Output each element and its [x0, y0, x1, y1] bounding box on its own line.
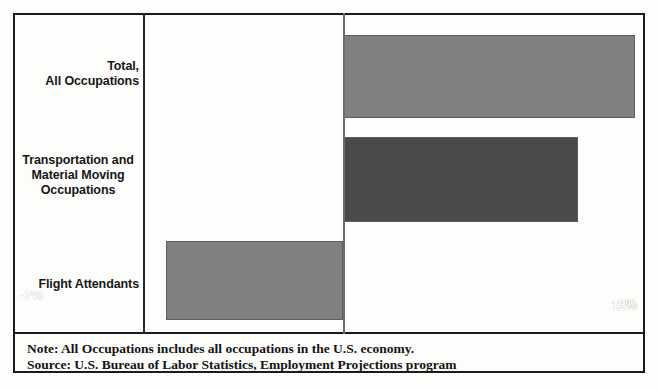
category-axis-divider: [143, 13, 145, 334]
bar-transportation-material-moving: [343, 137, 578, 222]
chart-footer: Note: All Occupations includes all occup…: [13, 334, 645, 373]
category-label-line: Occupations: [13, 183, 143, 198]
footer-source: Source: U.S. Bureau of Labor Statistics,…: [27, 357, 645, 373]
bar-total-all-occupations: [343, 35, 635, 118]
category-label-line: All Occupations: [13, 74, 139, 89]
category-label-total-all-occupations: Total, All Occupations: [13, 59, 139, 89]
plot-area: Total, All Occupations Transportation an…: [13, 13, 645, 334]
bar-value-label: -7%: [20, 289, 43, 302]
category-label-line: Total,: [13, 59, 139, 74]
category-label-line: Transportation and: [13, 153, 143, 168]
category-label-transportation-material-moving: Transportation and Material Moving Occup…: [13, 153, 143, 198]
bar-value-label: 9%: [618, 297, 637, 310]
bar-flight-attendants: [166, 241, 343, 320]
bar-chart-figure: Total, All Occupations Transportation an…: [0, 0, 659, 388]
footer-note: Note: All Occupations includes all occup…: [27, 341, 645, 357]
category-label-line: Material Moving: [13, 168, 143, 183]
zero-baseline: [343, 13, 345, 334]
